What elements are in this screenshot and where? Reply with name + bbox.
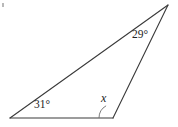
triangle-diagram: 31° 29° x bbox=[0, 0, 178, 127]
angle-label-unknown-x: x bbox=[101, 92, 106, 104]
triangle-figure-svg bbox=[0, 0, 178, 127]
corner-speck-artifact bbox=[2, 3, 4, 7]
figure-background bbox=[0, 0, 178, 127]
angle-label-apex: 29° bbox=[132, 29, 148, 41]
angle-label-bottom-left: 31° bbox=[34, 99, 50, 111]
